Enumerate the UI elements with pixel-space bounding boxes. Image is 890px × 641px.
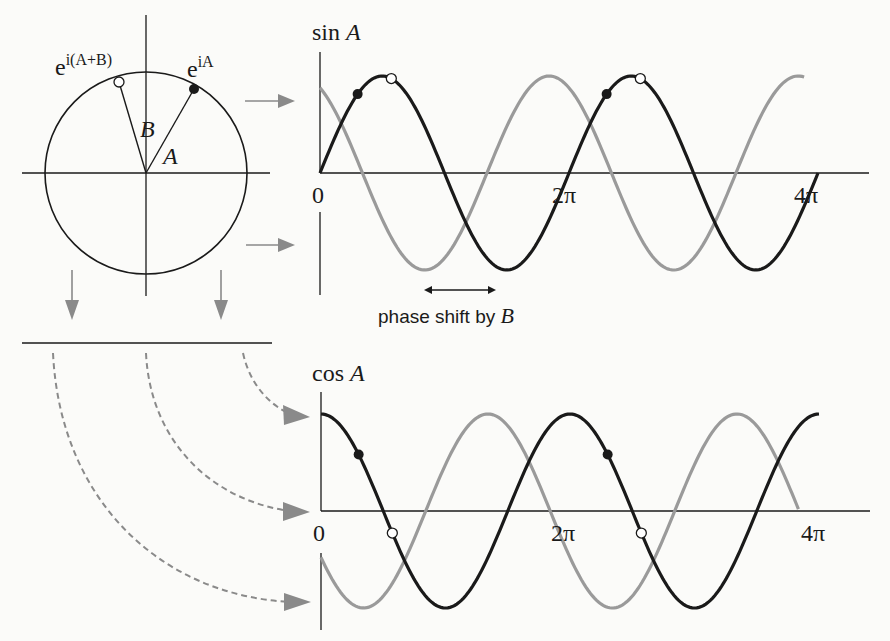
dashed-arrow-head-3 bbox=[284, 593, 311, 611]
angle-A-label: A bbox=[161, 143, 178, 169]
open-point-eiAB bbox=[114, 77, 124, 87]
label-eiAB: ei(A+B) bbox=[55, 51, 112, 80]
sin-plot: sin A 0 2π 4π phase shift by B bbox=[308, 19, 869, 328]
arrow-down-right-head bbox=[214, 300, 228, 320]
sin-filled-dot bbox=[602, 89, 612, 99]
sin-tick-0: 0 bbox=[312, 182, 324, 208]
dashed-arrow-2 bbox=[146, 353, 290, 511]
dashed-arrow-head-2 bbox=[283, 502, 310, 521]
dashed-arrow-head-1 bbox=[283, 405, 310, 425]
cos-tick-0: 0 bbox=[313, 520, 325, 546]
sin-tick-2pi: 2π bbox=[552, 182, 576, 208]
cos-filled-dot bbox=[603, 450, 613, 460]
sin-title: sin A bbox=[312, 19, 361, 45]
sin-open-dot bbox=[386, 74, 396, 84]
dashed-rotation-arrows bbox=[53, 353, 290, 602]
dashed-arrow-1 bbox=[243, 353, 290, 414]
dashed-arrow-heads bbox=[283, 405, 311, 611]
cos-tick-2pi: 2π bbox=[551, 520, 575, 546]
cos-open-dot bbox=[387, 528, 397, 538]
arrow-down-left-head bbox=[65, 300, 79, 320]
cos-tick-4pi: 4π bbox=[801, 520, 825, 546]
cos-title: cos A bbox=[312, 360, 365, 386]
phase-shift-label: phase shift by B bbox=[378, 303, 514, 328]
arrow-right-top-head bbox=[278, 94, 295, 108]
angle-B-label: B bbox=[140, 116, 155, 142]
dashed-arrow-3 bbox=[53, 353, 290, 602]
cos-open-dot bbox=[636, 528, 646, 538]
arrow-right-bottom-head bbox=[278, 238, 295, 252]
cos-filled-dot bbox=[354, 450, 364, 460]
filled-point-eiA bbox=[189, 84, 199, 94]
sin-tick-4pi: 4π bbox=[794, 182, 818, 208]
phase-shift-diagram: ei(A+B) eiA B A sin A bbox=[0, 0, 890, 641]
cos-plot: cos A 0 2π 4π bbox=[309, 360, 870, 630]
sin-filled-dot bbox=[353, 89, 363, 99]
sin-open-dot bbox=[635, 74, 645, 84]
unit-circle-group: ei(A+B) eiA B A bbox=[22, 15, 270, 296]
label-eiA: eiA bbox=[187, 53, 214, 82]
projection-arrows bbox=[65, 94, 295, 320]
